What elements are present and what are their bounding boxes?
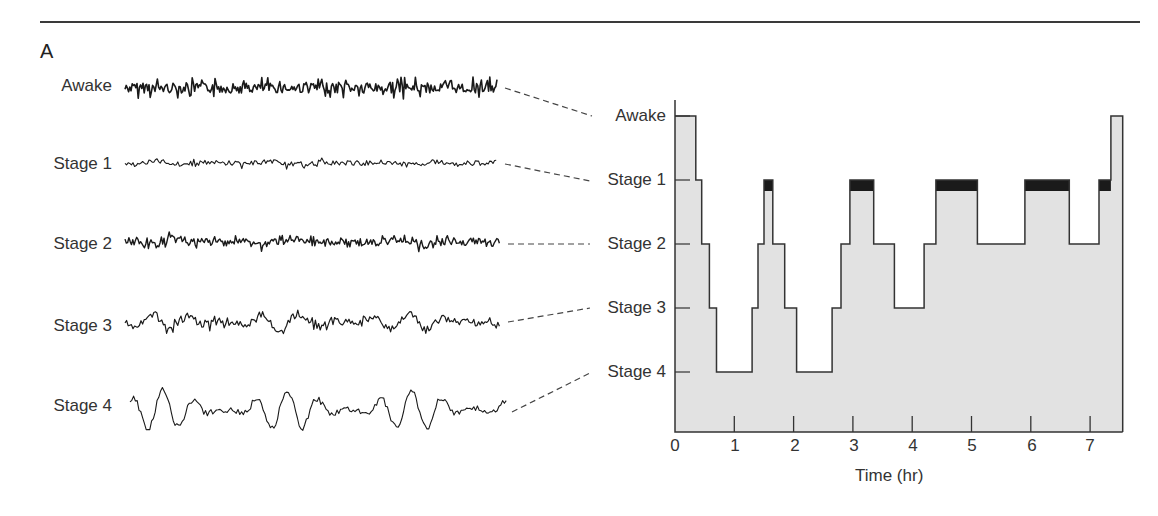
- hypnogram: [675, 100, 1123, 432]
- dashed-connectors: [505, 88, 592, 412]
- figure-graphics: [0, 0, 1158, 516]
- eeg-traces: [125, 77, 506, 430]
